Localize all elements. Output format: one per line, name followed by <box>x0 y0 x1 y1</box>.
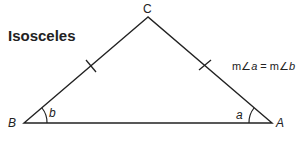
angle-label-b: b <box>49 106 56 120</box>
isosceles-triangle-diagram: Isosceles C B A b a m∠a = m∠b <box>0 0 307 141</box>
angle-equality-equation: m∠a = m∠b <box>232 60 295 72</box>
angle-arc-b <box>42 108 47 123</box>
diagram-title: Isosceles <box>8 27 76 44</box>
eq-mid: = m∠ <box>257 60 289 72</box>
angle-arc-a <box>249 108 254 123</box>
vertex-label-a: A <box>275 116 284 130</box>
eq-var2: b <box>289 60 295 72</box>
eq-prefix1: m∠ <box>232 60 251 72</box>
diagram-svg: Isosceles C B A b a m∠a = m∠b <box>0 0 307 141</box>
vertex-label-c: C <box>143 2 152 16</box>
vertex-label-b: B <box>8 116 16 130</box>
angle-label-a: a <box>236 108 243 122</box>
tick-mark-left <box>86 60 96 72</box>
